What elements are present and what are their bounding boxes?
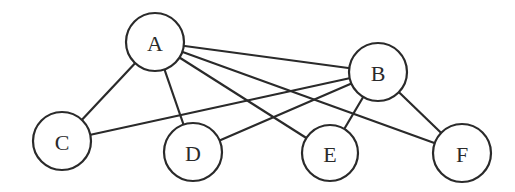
node-e: E: [302, 125, 358, 181]
node-d: D: [164, 123, 222, 181]
edge-a-b: [155, 42, 378, 72]
node-label: C: [55, 130, 70, 155]
node-label: F: [456, 142, 468, 167]
node-f: F: [433, 124, 491, 182]
graph-diagram: ABCDEF: [0, 0, 515, 192]
node-label: A: [147, 31, 163, 56]
node-label: E: [323, 142, 336, 167]
node-c: C: [33, 112, 91, 170]
node-label: B: [371, 61, 386, 86]
node-label: D: [185, 141, 201, 166]
node-b: B: [349, 43, 407, 101]
node-a: A: [126, 13, 184, 71]
